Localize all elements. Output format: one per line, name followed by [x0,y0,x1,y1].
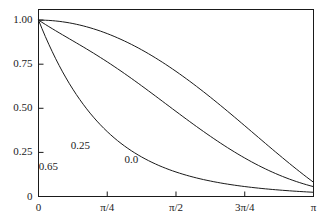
curve-label-0-0: 0.0 [125,154,139,165]
x-axis-tick-label: π/4 [87,202,127,213]
y-axis-tick-label: 0.50 [0,102,33,113]
y-axis-tick-label: 0 [0,191,33,202]
y-axis-tick-label: 0.25 [0,146,33,157]
x-axis-tick-label: 0 [19,202,59,213]
line-chart-plot [0,0,329,224]
x-axis-tick-label: π [294,202,329,213]
x-axis-tick-label: π/2 [156,202,196,213]
y-axis-tick-label: 0.75 [0,58,33,69]
y-axis-tick-label: 1.00 [0,14,33,25]
chart-figure: 0π/4π/23π/4π00.250.500.751.000.00.250.65 [0,0,329,224]
plot-frame [39,10,314,197]
curve-label-0-65: 0.65 [39,161,58,172]
x-axis-tick-label: 3π/4 [225,202,265,213]
curve-label-0-25: 0.25 [71,140,90,151]
